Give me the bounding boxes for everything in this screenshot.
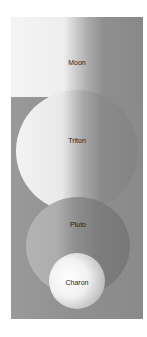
moon-body [11,17,143,97]
triton-body [16,90,138,212]
pluto-label: Pluto [48,221,108,228]
comparison-panel: Moon Triton Pluto Charon [11,17,143,319]
charon-label: Charon [47,279,107,286]
triton-label: Triton [47,137,107,144]
moon-label: Moon [47,59,107,66]
